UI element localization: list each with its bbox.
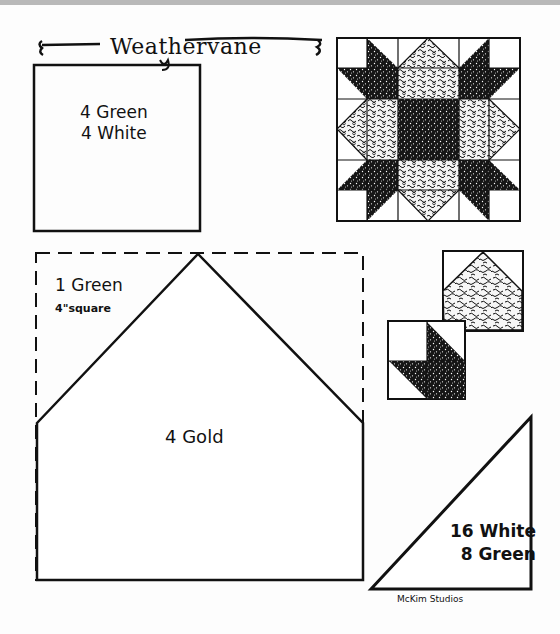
pentagon-unit-preview	[443, 251, 523, 331]
square-cut-line-1: 4 Green	[80, 102, 148, 123]
pentagon-cut-label: 4 Gold	[165, 426, 224, 447]
square-cut-label: 4 Green 4 White	[80, 102, 148, 144]
block-preview	[337, 38, 520, 221]
triangle-cut-label: 16 White 8 Green	[450, 520, 536, 566]
triangle-cut-line-2: 8 Green	[450, 543, 536, 566]
green-square-size-label: 4"square	[55, 302, 111, 315]
square-cut-line-2: 4 White	[80, 123, 148, 144]
corner-unit-preview	[388, 321, 465, 399]
square-template	[34, 65, 200, 231]
pattern-title: Weathervane	[110, 34, 262, 59]
publisher-credit: McKim Studios	[397, 594, 463, 604]
triangle-cut-line-1: 16 White	[450, 520, 536, 543]
green-square-cut-label: 1 Green	[55, 275, 123, 295]
